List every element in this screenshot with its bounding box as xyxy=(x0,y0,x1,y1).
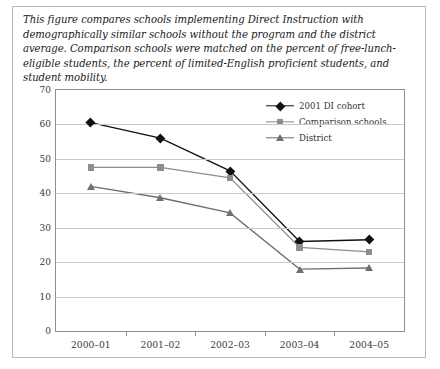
x-axis-tick-label: 2001–02 xyxy=(141,339,181,350)
chart-legend: 2001 DI cohortComparison schoolsDistrict xyxy=(263,95,391,149)
legend-item: 2001 DI cohort xyxy=(266,98,387,114)
gridline xyxy=(56,228,404,229)
y-axis-tick-label: 0 xyxy=(45,326,51,336)
x-axis-tick xyxy=(195,331,196,336)
x-axis-tick-label: 2003–04 xyxy=(280,339,320,350)
legend-swatch xyxy=(266,131,294,145)
y-axis-tick-label: 70 xyxy=(40,85,51,95)
gridline xyxy=(56,193,404,194)
legend-line xyxy=(266,105,294,106)
x-axis-tick-label: 2004–05 xyxy=(349,339,389,350)
y-axis-tick-label: 30 xyxy=(40,223,51,233)
legend-swatch xyxy=(266,115,294,129)
y-axis-tick-label: 20 xyxy=(40,257,51,267)
gridline xyxy=(56,297,404,298)
series-line xyxy=(91,167,369,251)
y-axis-tick-label: 10 xyxy=(40,292,51,302)
legend-label: 2001 DI cohort xyxy=(299,101,365,111)
figure-caption: This figure compares schools implementin… xyxy=(23,13,415,86)
x-axis-tick-label: 2002–03 xyxy=(210,339,250,350)
legend-line xyxy=(266,121,294,122)
legend-item: Comparison schools xyxy=(266,114,387,130)
figure-container: This figure compares schools implementin… xyxy=(12,6,426,358)
legend-line xyxy=(266,137,294,138)
legend-item: District xyxy=(266,130,387,146)
chart: 2001 DI cohortComparison schoolsDistrict… xyxy=(23,81,415,349)
legend-swatch xyxy=(266,99,294,113)
x-axis-tick-label: 2000–01 xyxy=(71,339,111,350)
gridline xyxy=(56,262,404,263)
gridline xyxy=(56,159,404,160)
x-axis-tick xyxy=(265,331,266,336)
legend-label: Comparison schools xyxy=(299,117,387,127)
gridline xyxy=(56,124,404,125)
x-axis-tick xyxy=(126,331,127,336)
y-axis-tick-label: 50 xyxy=(40,154,51,164)
legend-label: District xyxy=(299,133,332,143)
plot-area: 2001 DI cohortComparison schoolsDistrict… xyxy=(55,89,405,332)
y-axis-tick-label: 60 xyxy=(40,119,51,129)
x-axis-tick xyxy=(334,331,335,336)
y-axis-tick-label: 40 xyxy=(40,188,51,198)
